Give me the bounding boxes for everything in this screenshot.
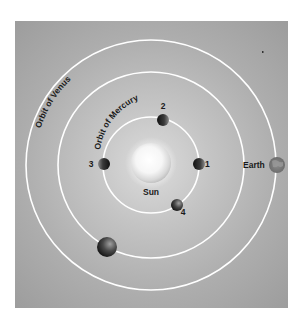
- mercury-position-3: 3: [89, 158, 110, 170]
- mercury-position-1: 1: [193, 158, 210, 170]
- sun-label: Sun: [143, 187, 159, 197]
- svg-text:3: 3: [89, 159, 94, 169]
- mercury-icon: [157, 114, 169, 126]
- earth-label: Earth: [243, 160, 265, 170]
- mercury-position-2: 2: [157, 101, 169, 126]
- mercury-position-4: 4: [171, 199, 186, 217]
- solar-system-diagram: Sun Orbit of Venus Orbit of Mercury 1 2 …: [0, 0, 301, 323]
- svg-text:4: 4: [181, 207, 186, 217]
- svg-text:2: 2: [161, 101, 166, 111]
- mercury-icon: [98, 158, 110, 170]
- mercury-icon: [193, 158, 205, 170]
- svg-text:1: 1: [205, 159, 210, 169]
- orbit-venus-label: Orbit of Venus: [33, 74, 73, 130]
- venus-icon: [97, 237, 117, 257]
- speck: [262, 51, 264, 53]
- earth-icon: [269, 157, 285, 173]
- sun-icon: [131, 143, 171, 183]
